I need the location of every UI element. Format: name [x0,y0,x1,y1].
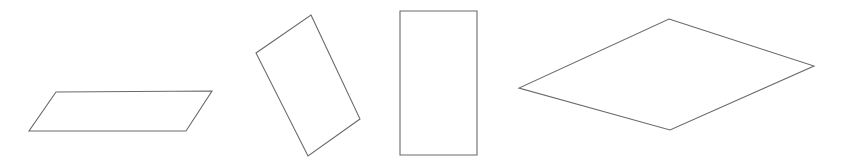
figure-canvas [0,0,847,164]
upright-rectangle-shape [400,11,477,155]
shapes-svg [0,0,847,164]
parallelogram-shape [29,91,212,131]
rotated-rectangle-shape [256,15,360,156]
rhombus-shape [519,19,814,130]
